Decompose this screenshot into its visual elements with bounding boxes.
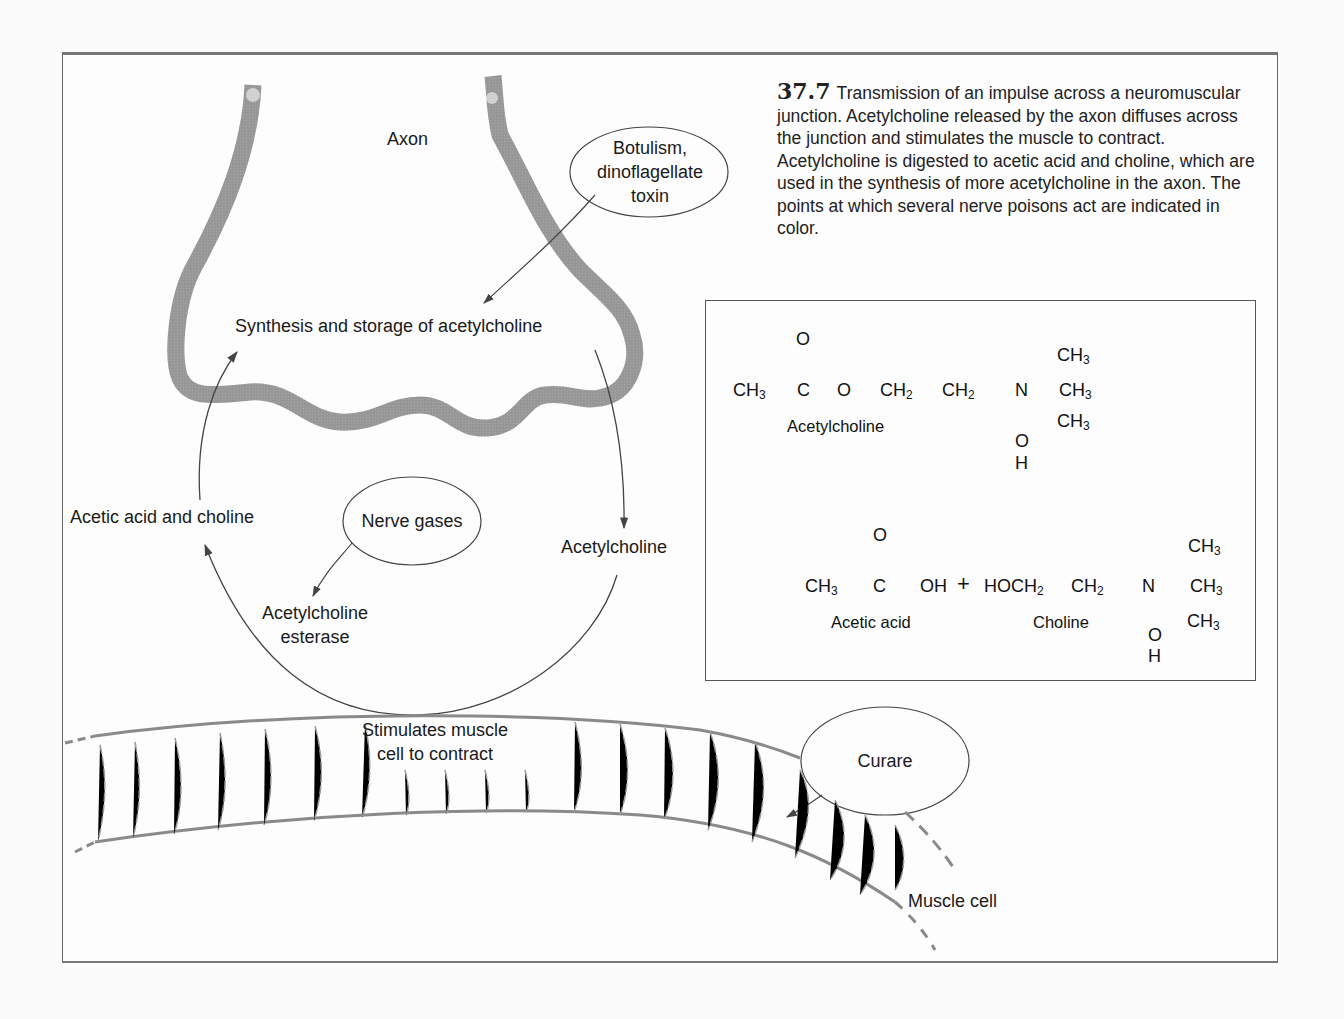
acetic-acid-name: Acetic acid (831, 613, 911, 632)
poison-botulism: Botulism, dinoflagellate toxin (590, 136, 710, 208)
poison-nerve-gases: Nerve gases (352, 509, 472, 533)
choline-name: Choline (1033, 613, 1089, 632)
label-axon: Axon (387, 127, 428, 151)
resynthesis-arrow (199, 352, 237, 500)
label-acetylcholine-esterase: Acetylcholine esterase (245, 601, 385, 649)
label-synthesis-storage: Synthesis and storage of acetylcholine (235, 314, 542, 338)
figure-number: 37.7 (777, 78, 831, 104)
caption-text: Transmission of an impulse across a neur… (777, 83, 1255, 238)
label-acetylcholine: Acetylcholine (561, 535, 667, 559)
poison-curare: Curare (825, 749, 945, 773)
label-acetic-acid-choline: Acetic acid and choline (70, 505, 254, 529)
chemistry-panel (705, 300, 1256, 681)
plus-sign: + (957, 573, 970, 595)
label-muscle-cell: Muscle cell (908, 889, 997, 913)
label-stimulates-muscle: Stimulates muscle cell to contract (340, 718, 530, 766)
figure-caption: 37.7Transmission of an impulse across a … (777, 80, 1257, 240)
nerve-gases-arrow (313, 543, 352, 596)
acetylcholine-name: Acetylcholine (787, 417, 884, 436)
